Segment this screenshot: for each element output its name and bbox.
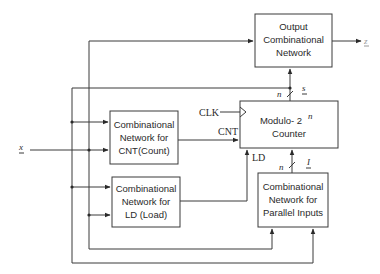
ld-signal-wire	[180, 150, 247, 201]
parallel-network-block: Combinational Network for Parallel Input…	[258, 173, 328, 227]
junction-dot	[288, 86, 291, 89]
ld-network-block: Combinational Network for LD (Load)	[112, 177, 180, 227]
parallel-block-line-1: Combinational	[263, 181, 324, 192]
clk-label: CLK	[199, 107, 220, 118]
counter-line-1: Modulo- 2	[260, 115, 302, 126]
output-network-block: Output Combinational Network	[255, 14, 332, 67]
ld-block-line-2: Network for	[122, 196, 171, 207]
parallel-block-line-3: Parallel Inputs	[263, 207, 323, 218]
output-block-line-1: Output	[279, 21, 308, 32]
output-block-line-3: Network	[276, 47, 311, 58]
junction-dot	[87, 148, 90, 151]
junction-dot	[70, 185, 73, 188]
counter-line-2: Counter	[272, 128, 306, 139]
cnt-block-line-3: CNT(Count)	[118, 145, 169, 156]
counter-block: Modulo- 2 n Counter	[240, 101, 338, 148]
cnt-block-line-1: Combinational	[114, 119, 175, 130]
parallel-i-label: I	[306, 157, 311, 167]
parallel-block-line-2: Network for	[269, 194, 318, 205]
ld-block-line-1: Combinational	[116, 183, 177, 194]
input-x-label: x	[18, 142, 23, 152]
output-block-line-2: Combinational	[263, 34, 324, 45]
junction-dot	[70, 120, 73, 123]
ld-label: LD	[252, 152, 265, 163]
output-z-label: z	[363, 36, 368, 46]
counter-block-diagram: Output Combinational Network Modulo- 2 n…	[0, 0, 380, 274]
cnt-network-block: Combinational Network for CNT(Count)	[110, 111, 178, 164]
junction-dot	[87, 213, 90, 216]
cnt-label: CNT	[218, 126, 238, 137]
state-s-label: s	[302, 83, 306, 93]
state-width-label: n	[277, 89, 282, 99]
cnt-block-line-2: Network for	[120, 132, 169, 143]
counter-superscript: n	[308, 111, 313, 121]
parallel-width-label: n	[279, 162, 284, 172]
ld-block-line-3: LD (Load)	[125, 209, 167, 220]
